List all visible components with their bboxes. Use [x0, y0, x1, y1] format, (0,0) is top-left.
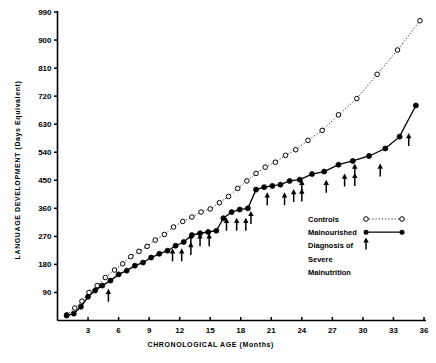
- up-arrow-icon: [324, 180, 329, 185]
- data-point-open: [120, 261, 125, 266]
- data-point-filled: [237, 207, 242, 212]
- data-point-filled: [262, 185, 267, 190]
- x-tick-label: 3: [86, 326, 91, 335]
- data-point-filled: [254, 187, 259, 192]
- data-point-filled: [350, 158, 355, 163]
- data-point-open: [180, 219, 185, 224]
- data-point-open: [199, 210, 204, 215]
- x-tick-label: 33: [389, 326, 398, 335]
- x-tick-label: 6: [116, 326, 121, 335]
- x-tick-label: 21: [267, 326, 276, 335]
- data-point-filled: [397, 134, 402, 139]
- up-arrow-icon: [265, 192, 270, 197]
- y-tick-label: 450: [38, 176, 52, 185]
- up-arrow-icon: [352, 164, 357, 169]
- data-point-filled: [383, 146, 388, 151]
- data-point-filled: [149, 255, 154, 260]
- x-tick-label: 24: [297, 326, 306, 335]
- series-malnourished: [64, 103, 418, 318]
- y-tick-label: 630: [38, 120, 52, 129]
- legend-filled-circle-icon: [364, 230, 369, 235]
- x-tick-label: 9: [147, 326, 152, 335]
- data-point-filled: [86, 294, 91, 299]
- x-tick-label: 12: [175, 326, 184, 335]
- up-arrow-icon: [243, 218, 248, 223]
- data-point-open: [355, 96, 360, 101]
- data-point-filled: [214, 228, 219, 233]
- data-point-open: [137, 249, 142, 254]
- data-point-filled: [165, 248, 170, 253]
- x-tick-label: 36: [420, 326, 429, 335]
- up-arrow-icon: [291, 189, 296, 194]
- legend-open-circle-icon: [400, 217, 405, 222]
- data-point-open: [283, 153, 288, 158]
- up-arrow-icon: [378, 164, 383, 169]
- data-point-open: [273, 160, 278, 165]
- data-point-open: [145, 244, 150, 249]
- data-point-open: [112, 268, 117, 273]
- y-tick-label: 90: [43, 288, 52, 297]
- x-axis-title: CHRONOLOGICAL AGE (Months): [148, 341, 274, 349]
- data-point-filled: [206, 230, 211, 235]
- data-point-open: [235, 186, 240, 191]
- data-point-open: [395, 48, 400, 53]
- up-arrow-icon: [342, 174, 347, 179]
- data-point-open: [95, 283, 100, 288]
- data-point-filled: [336, 162, 341, 167]
- data-point-open: [245, 179, 250, 184]
- up-arrow-icon: [282, 192, 287, 197]
- y-tick-label: 900: [38, 36, 52, 45]
- legend-label: Controls: [308, 215, 339, 224]
- legend-open-circle-icon: [364, 217, 369, 222]
- data-point-filled: [100, 283, 105, 288]
- legend-label: Malnutrition: [308, 268, 351, 277]
- data-point-open: [190, 215, 195, 220]
- data-point-open: [208, 207, 213, 212]
- x-tick-label: 27: [328, 326, 337, 335]
- data-point-filled: [108, 278, 113, 283]
- y-tick-label: 720: [38, 92, 52, 101]
- x-tick-label: 15: [206, 326, 215, 335]
- data-point-filled: [124, 268, 129, 273]
- data-point-filled: [322, 169, 327, 174]
- data-point-filled: [181, 239, 186, 244]
- series-line: [67, 21, 420, 315]
- data-point-open: [336, 113, 341, 118]
- data-point-open: [254, 171, 259, 176]
- legend-label: Diagnosis of: [308, 241, 354, 250]
- data-point-open: [320, 128, 325, 133]
- data-point-filled: [141, 260, 146, 265]
- legend-label: Malnourished: [308, 228, 357, 237]
- y-tick-label: 810: [38, 64, 52, 73]
- data-point-filled: [173, 243, 178, 248]
- legend-up-arrow-icon: [363, 237, 368, 242]
- data-point-filled: [221, 216, 226, 221]
- y-tick-label: 540: [38, 148, 52, 157]
- up-arrow-icon: [406, 133, 411, 138]
- data-point-filled: [71, 311, 76, 316]
- y-tick-label: 360: [38, 204, 52, 213]
- data-point-filled: [78, 304, 83, 309]
- data-point-filled: [116, 272, 121, 277]
- data-point-open: [226, 194, 231, 199]
- x-tick-label: 18: [236, 326, 245, 335]
- data-point-open: [73, 306, 78, 311]
- data-point-filled: [270, 183, 275, 188]
- up-arrow-icon: [106, 289, 111, 294]
- data-point-filled: [229, 210, 234, 215]
- legend-filled-circle-icon: [400, 230, 405, 235]
- data-point-open: [306, 138, 311, 143]
- data-point-filled: [413, 103, 418, 108]
- data-point-filled: [64, 313, 69, 318]
- data-point-open: [293, 147, 298, 152]
- data-point-filled: [367, 153, 372, 158]
- y-tick-label: 180: [38, 260, 52, 269]
- data-point-filled: [245, 206, 250, 211]
- data-point-open: [217, 200, 222, 205]
- data-point-open: [375, 72, 380, 77]
- data-point-filled: [310, 172, 315, 177]
- data-point-open: [418, 18, 423, 23]
- data-point-open: [103, 275, 108, 280]
- y-axis-title: LANGUAGE DEVELOPMENT (Days Equivalent): [14, 81, 22, 260]
- data-point-filled: [278, 182, 283, 187]
